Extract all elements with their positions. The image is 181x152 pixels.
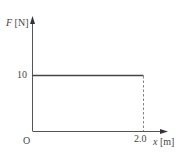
- y-tick-10: 10: [17, 70, 27, 80]
- origin-label: O: [23, 136, 30, 146]
- y-unit: [N]: [15, 17, 29, 28]
- y-symbol: F: [6, 17, 12, 28]
- y-axis-arrow-icon: [30, 16, 35, 24]
- x-unit: [m]: [160, 136, 174, 147]
- y-axis-label: F [N]: [6, 18, 29, 28]
- x-axis-label: x [m]: [153, 137, 174, 147]
- x-tick-2-0: 2.0: [134, 134, 147, 144]
- x-symbol: x: [153, 136, 157, 147]
- x-axis-arrow-icon: [160, 129, 168, 134]
